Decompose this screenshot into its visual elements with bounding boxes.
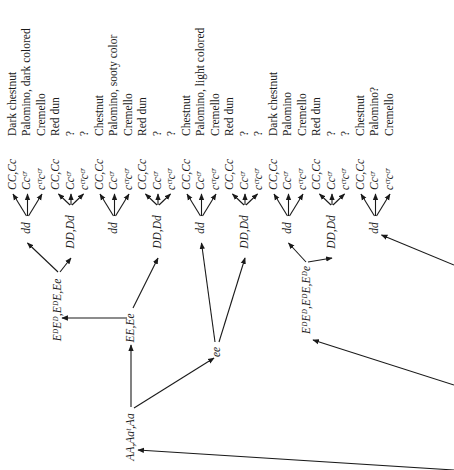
genotype-leaf-label: Ccᶜʳ [151,170,163,190]
genotype-leaf-label: cᶜʳcᶜʳ [252,167,264,190]
phenotype-label: Cremello [296,93,308,136]
arrow [28,243,59,272]
phenotype-label: Dark chestnut [6,71,18,136]
dd-node: dd [368,222,380,234]
genotype-leaf-label: Ccᶜʳ [368,170,380,190]
genotype-leaf-label: cᶜʳcᶜʳ [165,167,177,190]
offscreen-arrow-to-root [138,450,454,470]
root-genotype-node: AA,Aaᵗ,Aa [124,413,137,462]
ED-genotype-node: EᴰEᴰ,EᴰE,Ee [51,279,64,343]
genotype-leaf-label: Ccᶜʳ [281,170,293,190]
arrow [289,243,307,262]
genotype-leaf-label: Ccᶜʳ [325,170,337,190]
dd-node: dd [107,222,119,234]
EE-Ee-node: EE,Ee [124,313,137,343]
tree-edges [13,194,454,470]
arrow-to-leaf [72,194,84,205]
genotype-leaf-label: cᶜʳcᶜʳ [78,167,90,190]
DD-Dd-node: DD,Dd [151,215,164,250]
genotype-leaf-label: Ccᶜʳ [107,170,119,190]
phenotype-label: Cremello [383,93,395,136]
arrow-to-leaf [59,194,71,205]
phenotype-label: Red dun [49,97,61,136]
genotype-leaf-label: cᶜʳcᶜʳ [383,167,395,190]
phenotype-label: Chestnut [180,94,192,136]
phenotype-label: Palomino? [368,87,380,136]
phenotype-label: Red dun [310,97,322,136]
genotype-leaf-label: cᶜʳcᶜʳ [339,167,351,190]
genotype-leaf-label: CC,Cc [136,159,149,190]
ED-genotype-node: EᴰEᴰ,EᴰE,Eᴰe [300,266,313,335]
DD-Dd-node: DD,Dd [325,215,338,250]
genotype-leaf-label: cᶜʳcᶜʳ [296,167,308,190]
phenotype-label: ? [151,131,163,136]
arrow-to-leaf [361,194,375,216]
arrow-to-leaf [203,194,217,216]
phenotype-label: ? [78,131,90,136]
arrow [308,258,332,262]
genotype-leaf-label: CC,Cc [180,159,193,190]
genotype-leaf-label: cᶜʳcᶜʳ [35,167,47,190]
arrow-to-leaf [100,194,114,216]
arrow-to-leaf [29,194,43,216]
arrow [133,258,158,308]
phenotype-label: Cremello [122,93,134,136]
genotype-leaf-label: CC,Cc [49,159,62,190]
phenotype-label: Palomino, light colored [194,27,207,136]
genotype-leaf-label: Ccᶜʳ [194,170,206,190]
phenotype-label: Dark chestnut [267,71,279,136]
phenotype-label: Red dun [223,97,235,136]
dd-node: dd [281,222,293,234]
dd-node: dd [20,222,32,234]
genotype-leaf-label: CC,Cc [267,159,280,190]
phenotype-label: ? [252,131,264,136]
genotype-leaf-label: CC,Cc [93,159,106,190]
arrow-to-leaf [274,194,288,216]
phenotype-label: ? [238,131,250,136]
arrow-to-leaf [146,194,158,205]
arrow-to-leaf [233,194,245,205]
horse-coat-color-genetics-tree: Dark chestnutPalomino, dark coloredCreme… [0,0,454,470]
phenotype-label: ? [165,131,177,136]
offscreen-arrow-to-ED2 [313,340,454,385]
arrow-to-leaf [187,194,201,216]
arrow-to-leaf [246,194,258,205]
genotype-leaf-label: CC,Cc [6,159,19,190]
DD-Dd-node: DD,Dd [64,215,77,250]
phenotype-label: ? [64,131,76,136]
offscreen-arrow-to-dd [382,235,454,265]
DD-Dd-node: DD,Dd [238,215,251,250]
genotype-leaf-label: cᶜʳcᶜʳ [122,167,134,190]
genotype-leaf-label: CC,Cc [223,159,236,190]
phenotype-label: Palomino, sooty color [107,35,120,136]
genotype-leaf-label: Ccᶜʳ [64,170,76,190]
genotype-leaf-label: CC,Cc [354,159,367,190]
arrow-to-leaf [13,194,27,216]
arrow [202,243,216,342]
arrow-to-leaf [320,194,332,205]
genotype-leaf-label: cᶜʳcᶜʳ [209,167,221,190]
phenotype-label: ? [325,131,337,136]
phenotype-label: Chestnut [354,94,366,136]
genotype-leaf-label: CC,Cc [310,159,323,190]
arrow-to-leaf [377,194,391,216]
phenotype-label: Cremello [35,93,47,136]
phenotype-label: Cremello [209,93,221,136]
arrow [134,358,214,408]
arrow [219,258,245,342]
arrow [60,258,71,272]
phenotype-label: Chestnut [93,94,105,136]
arrow-to-leaf [116,194,130,216]
arrow-to-leaf [290,194,304,216]
dd-node: dd [194,222,206,234]
phenotype-label: Palomino, dark colored [20,28,33,136]
phenotype-label: Palomino [281,92,293,136]
ee-node: ee [210,347,222,357]
genotype-leaf-label: Ccᶜʳ [20,170,32,190]
genotype-leaf-label: Ccᶜʳ [238,170,250,190]
tree-labels: Dark chestnutPalomino, dark coloredCreme… [6,27,395,461]
arrow-to-leaf [159,194,171,205]
phenotype-label: Red dun [136,97,148,136]
arrow-to-leaf [333,194,345,205]
phenotype-label: ? [339,131,351,136]
